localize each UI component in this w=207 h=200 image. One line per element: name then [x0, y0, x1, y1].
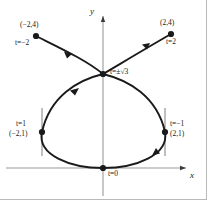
point-origin: [100, 165, 106, 171]
label-top-right-point: (2,4): [160, 19, 174, 27]
y-axis-label: y: [90, 6, 94, 16]
label-left-point: (−2,1): [9, 130, 28, 138]
label-top-right-param: t=2: [166, 38, 176, 46]
label-right-point: (2,1): [170, 130, 184, 138]
curve-canvas: [0, 0, 207, 200]
point-t-minus-1: [162, 129, 168, 135]
label-right-param: t=−1: [170, 120, 184, 128]
label-origin-param: t=0: [108, 170, 118, 178]
point-t-1: [39, 129, 45, 135]
parametric-curve-figure: y x (−2,4) t=−2 (2,4) t=2 t=±√3 t=1 (−2,…: [0, 0, 207, 200]
page-edge-rule-right: [206, 0, 207, 200]
label-top-left-param: t=−2: [15, 39, 29, 47]
direction-arrow-loop-left: [70, 88, 79, 96]
label-left-param: t=1: [16, 120, 26, 128]
x-axis-label: x: [190, 170, 194, 180]
page-edge-rule-bottom: [0, 199, 207, 200]
point-crossing: [100, 71, 106, 77]
label-crossing-param: t=±√3: [110, 68, 128, 76]
label-top-left-point: (−2,4): [20, 21, 39, 29]
point-t-minus-2: [33, 33, 39, 39]
